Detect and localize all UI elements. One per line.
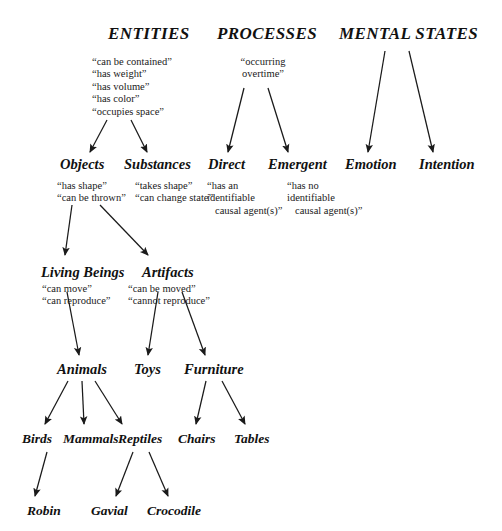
node-substances: Substances xyxy=(124,157,191,172)
edge-objects-livingbeings xyxy=(65,205,72,255)
attributes-direct: “has an identifiable causal agent(s)” xyxy=(207,180,282,217)
attribute-line: “can reproduce” xyxy=(42,295,111,307)
attribute-line: “takes shape” xyxy=(135,180,213,192)
node-tables: Tables xyxy=(234,432,270,446)
category-mental-states: MENTAL STATES xyxy=(339,25,478,42)
category-entities: ENTITIES xyxy=(108,25,190,42)
attributes-artifacts: “can be moved” “cannot reproduce” xyxy=(128,283,210,308)
edge-animals-reptiles xyxy=(95,381,122,424)
attribute-line: “occurring xyxy=(235,56,291,68)
node-reptiles: Reptiles xyxy=(118,432,162,446)
attribute-line: causal agent(s)” xyxy=(207,205,282,217)
attributes-emergent: “has no identifiable causal agent(s)” xyxy=(287,180,362,217)
edge-mentalstates-emotion xyxy=(368,51,385,152)
attribute-line: “has volume” xyxy=(92,81,172,93)
attribute-line: overtime” xyxy=(235,68,291,80)
node-living-beings: Living Beings xyxy=(41,265,124,280)
edge-processes-direct xyxy=(228,88,244,152)
node-robin: Robin xyxy=(27,504,61,518)
node-artifacts: Artifacts xyxy=(142,265,194,280)
edge-processes-emergent xyxy=(268,88,288,152)
category-processes: PROCESSES xyxy=(217,25,317,42)
attribute-line: “has weight” xyxy=(92,68,172,80)
node-furniture: Furniture xyxy=(184,362,244,377)
edge-entities-objects xyxy=(90,120,107,152)
edge-furniture-chairs xyxy=(196,381,206,424)
attribute-line: “can be moved” xyxy=(128,283,210,295)
ontology-hierarchy-diagram: ENTITIES PROCESSES MENTAL STATES “can be… xyxy=(0,0,502,531)
attribute-line: “has color” xyxy=(92,93,172,105)
attribute-line: “cannot reproduce” xyxy=(128,295,210,307)
node-gavial: Gavial xyxy=(91,504,128,518)
node-animals: Animals xyxy=(57,362,107,377)
edge-entities-substances xyxy=(131,120,147,152)
edge-objects-artifacts xyxy=(100,205,148,255)
edge-furniture-tables xyxy=(222,381,245,424)
attributes-processes: “occurring overtime” xyxy=(235,56,291,81)
edge-reptiles-crocodile xyxy=(149,452,168,496)
attribute-line: causal agent(s)” xyxy=(287,205,362,217)
attributes-objects: “has shape” “can be thrown” xyxy=(57,180,126,205)
edge-reptiles-gavial xyxy=(116,452,133,496)
attribute-line: “has no xyxy=(287,180,362,192)
attribute-line: “has shape” xyxy=(57,180,126,192)
attribute-line: identifiable xyxy=(207,192,282,204)
edge-animals-birds xyxy=(45,381,68,424)
node-toys: Toys xyxy=(134,362,161,377)
attribute-line: “can be contained” xyxy=(92,56,172,68)
attribute-line: identifiable xyxy=(287,192,362,204)
attribute-line: “has an xyxy=(207,180,282,192)
node-emotion: Emotion xyxy=(345,157,397,172)
node-birds: Birds xyxy=(22,432,52,446)
node-mammals: Mammals xyxy=(63,432,119,446)
attributes-substances: “takes shape” “can change state” xyxy=(135,180,213,205)
edge-birds-robin xyxy=(35,452,47,496)
edge-mentalstates-intention xyxy=(409,51,433,152)
node-emergent: Emergent xyxy=(268,157,327,172)
node-intention: Intention xyxy=(419,157,475,172)
node-crocodile: Crocodile xyxy=(147,504,201,518)
node-chairs: Chairs xyxy=(178,432,216,446)
attributes-entities: “can be contained” “has weight” “has vol… xyxy=(92,56,172,118)
attributes-living-beings: “can move” “can reproduce” xyxy=(42,283,111,308)
attribute-line: “can change state” xyxy=(135,192,213,204)
attribute-line: “can move” xyxy=(42,283,111,295)
node-direct: Direct xyxy=(208,157,245,172)
attribute-line: “can be thrown” xyxy=(57,192,126,204)
node-objects: Objects xyxy=(60,157,104,172)
edge-animals-mammals xyxy=(82,381,84,424)
attribute-line: “occupies space” xyxy=(92,106,172,118)
